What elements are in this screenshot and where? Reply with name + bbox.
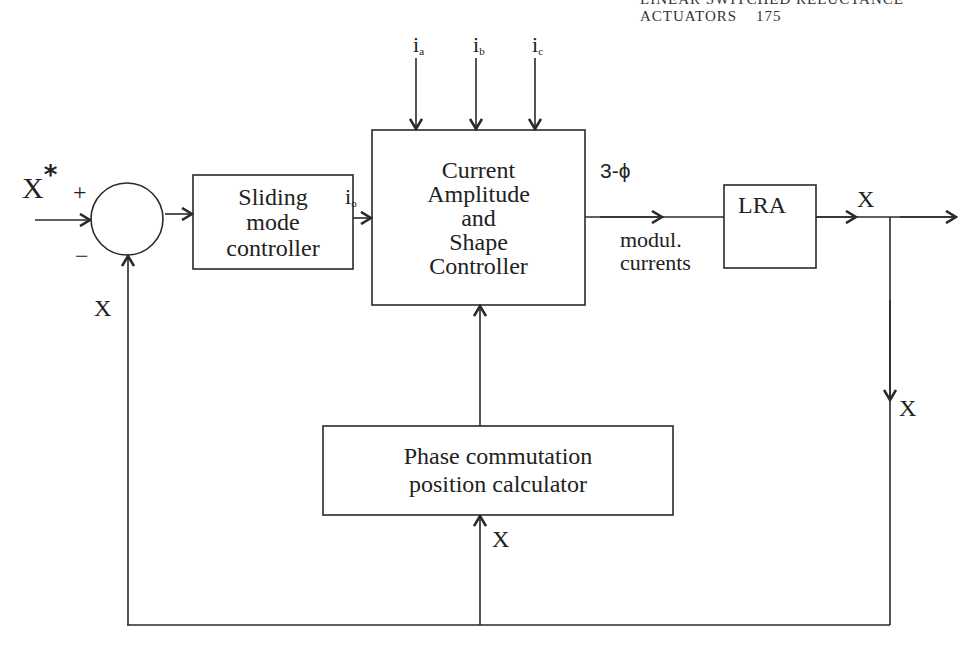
io-label: io (345, 186, 357, 209)
diagram-canvas (0, 0, 978, 655)
reference-input-label: X* (22, 162, 57, 203)
phase-calc-x-label: X (492, 527, 509, 551)
modulated-line2: currents (620, 251, 691, 274)
three-phase-label: 3-ϕ (600, 160, 630, 181)
ic-subscript: c (538, 45, 543, 57)
sliding-mode-line1: Sliding (238, 185, 307, 210)
current-controller-line1: Current (442, 158, 515, 182)
reference-base: X (22, 171, 44, 204)
plus-sign: + (73, 180, 87, 204)
phase-calculator-line1: Phase commutation (404, 443, 593, 471)
current-controller-line2: Amplitude (427, 182, 530, 206)
ic-label: ic (532, 34, 543, 57)
lra-label: LRA (738, 193, 786, 217)
sliding-mode-line3: controller (226, 236, 319, 261)
summing-junction (91, 183, 163, 255)
ia-label: ia (413, 34, 424, 57)
sliding-mode-line2: mode (246, 210, 299, 235)
current-controller-line3: and (461, 206, 496, 230)
branch-x-label: X (899, 396, 916, 420)
phase-calculator-line2: position calculator (409, 471, 587, 499)
output-x-label: X (857, 187, 874, 211)
current-controller-line4: Shape (449, 230, 508, 254)
ib-label: ib (473, 34, 485, 57)
current-controller-line5: Controller (429, 254, 528, 278)
feedback-x-label-left: X (94, 296, 111, 320)
minus-sign: − (75, 244, 89, 268)
reference-superscript: * (44, 160, 58, 190)
phase-calculator-label: Phase commutation position calculator (323, 433, 673, 509)
ib-subscript: b (479, 45, 485, 57)
modulated-currents-label: modul. currents (620, 228, 691, 274)
sliding-mode-label: Sliding mode controller (193, 178, 353, 268)
current-controller-label: Current Amplitude and Shape Controller (372, 138, 585, 298)
io-subscript: o (351, 197, 357, 209)
ia-subscript: a (419, 45, 424, 57)
modulated-line1: modul. (620, 228, 691, 251)
